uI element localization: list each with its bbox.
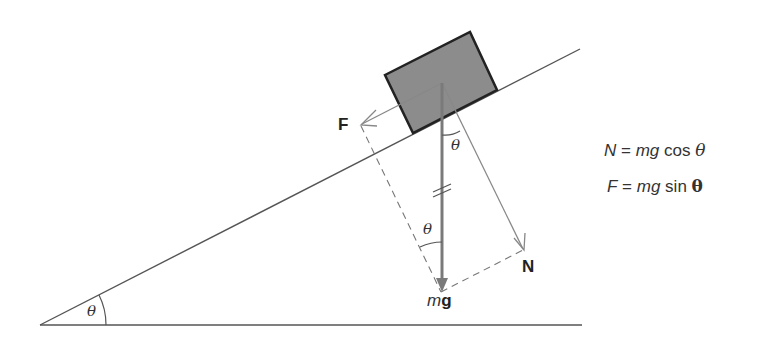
weight-label: mg xyxy=(427,291,452,311)
dashed-line-mg-to-n xyxy=(441,250,523,292)
dashed-line-f-to-mg xyxy=(361,126,441,292)
incline-angle-label: θ xyxy=(87,302,96,320)
block-angle-arc xyxy=(442,131,460,135)
incline-line xyxy=(40,49,580,325)
block-angle-label: θ xyxy=(451,136,460,154)
friction-label: F xyxy=(338,115,348,135)
incline-angle-arc xyxy=(99,295,106,325)
incline-diagram xyxy=(0,0,775,347)
lower-angle-label: θ xyxy=(423,220,432,238)
equation-friction: F = mg sin θ xyxy=(607,176,703,197)
normal-label: N xyxy=(522,257,534,277)
lower-angle-arc xyxy=(420,242,442,247)
equation-normal: N = mg cos θ xyxy=(604,140,705,161)
normal-arrow xyxy=(442,83,523,249)
